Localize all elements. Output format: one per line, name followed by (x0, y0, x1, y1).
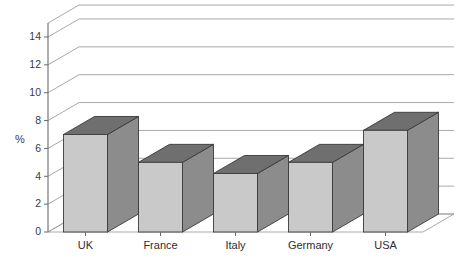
bar-front-face (289, 162, 333, 232)
bar-uk[interactable] (64, 116, 139, 232)
y-axis-tick-label-14: 14 (29, 30, 41, 42)
x-axis-label-uk: UK (78, 239, 94, 251)
y-axis-tick-label-10: 10 (29, 86, 41, 98)
bar-front-face (364, 130, 408, 232)
x-axis-label-france: France (143, 239, 177, 251)
bar-france[interactable] (139, 144, 214, 232)
bar-front-face (64, 134, 108, 232)
y-axis-tick-label-0: 0 (35, 225, 41, 237)
y-axis-tick-label-6: 6 (35, 142, 41, 154)
y-axis-tick-label-2: 2 (35, 197, 41, 209)
bar-italy[interactable] (214, 155, 289, 232)
x-axis-label-germany: Germany (288, 239, 334, 251)
chart-canvas: 02468101214%UKFranceItalyGermanyUSA (0, 0, 467, 267)
bar-usa[interactable] (364, 112, 439, 232)
y-axis-tick-label-12: 12 (29, 58, 41, 70)
gridline-12 (48, 47, 454, 65)
y-axis-tick-label-4: 4 (35, 170, 41, 182)
bar-front-face (214, 173, 258, 232)
gridline-10 (48, 75, 454, 93)
gridline-14 (48, 19, 454, 37)
y-axis-title: % (15, 133, 25, 145)
gridline-top (48, 5, 454, 23)
bar-side-face (408, 112, 439, 232)
y-axis-tick-label-8: 8 (35, 114, 41, 126)
bar-front-face (139, 162, 183, 232)
x-axis-label-usa: USA (374, 239, 397, 251)
bar-side-face (108, 116, 139, 232)
bar-chart-3d: 02468101214%UKFranceItalyGermanyUSA (0, 0, 467, 267)
x-axis-label-italy: Italy (225, 239, 246, 251)
bar-germany[interactable] (289, 144, 364, 232)
